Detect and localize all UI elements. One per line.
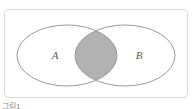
venn-diagram: A B [0, 0, 192, 109]
figure-caption: 그림1 [2, 102, 20, 109]
set-a-label: A [51, 49, 59, 61]
venn-diagram-screen: A B 그림1 [0, 0, 192, 109]
set-b-label: B [136, 49, 143, 61]
